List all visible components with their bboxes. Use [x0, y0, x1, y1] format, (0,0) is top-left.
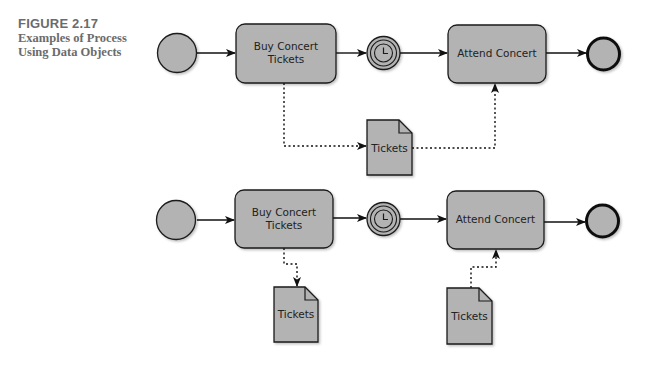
data-object-tickets-output: Tickets	[274, 287, 318, 342]
task-label-line1: Buy Concert	[254, 40, 319, 52]
diagram-1: Buy Concert Tickets Attend Concert Ticke…	[158, 24, 620, 175]
task-attend-concert: Attend Concert	[448, 25, 546, 83]
timer-event-icon	[367, 37, 400, 70]
end-event-icon	[588, 38, 620, 70]
task-label-line2: Tickets	[265, 219, 303, 231]
data-object-label: Tickets	[370, 142, 408, 154]
task-label-line2: Tickets	[267, 53, 305, 65]
start-event-icon	[158, 34, 197, 73]
data-object-label: Tickets	[450, 310, 488, 322]
task-attend-concert: Attend Concert	[447, 191, 544, 249]
data-association-input	[471, 250, 496, 288]
task-buy-concert-tickets: Buy Concert Tickets	[236, 24, 336, 83]
diagram-2: Buy Concert Tickets Attend Concert Ticke…	[157, 190, 619, 344]
task-label: Attend Concert	[456, 213, 535, 225]
data-association-output	[284, 83, 366, 146]
data-object-tickets-input: Tickets	[447, 288, 492, 344]
task-buy-concert-tickets: Buy Concert Tickets	[235, 190, 333, 248]
timer-event-icon	[367, 203, 400, 236]
data-object-tickets: Tickets	[367, 120, 412, 175]
data-association-output	[284, 248, 297, 286]
task-label-line1: Buy Concert	[252, 206, 317, 218]
start-event-icon	[157, 201, 196, 240]
bpmn-diagrams: Buy Concert Tickets Attend Concert Ticke…	[0, 0, 655, 370]
data-association-input	[412, 84, 495, 148]
data-object-label: Tickets	[277, 308, 315, 320]
end-event-icon	[587, 205, 619, 237]
task-label: Attend Concert	[457, 47, 536, 59]
